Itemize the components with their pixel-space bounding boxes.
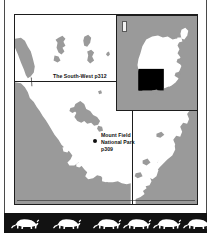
label-the-south-west: The South-West p312 <box>53 73 107 80</box>
map-panel-divider-horizontal <box>15 81 132 82</box>
thylacine-decorative-band <box>4 213 207 233</box>
tasmania-inset-map[interactable] <box>116 15 198 111</box>
label-mount-field-line1: Mount Field <box>101 132 147 139</box>
label-mount-field-line2: National Park <box>101 139 147 146</box>
page-frame-left-rule <box>4 0 5 219</box>
label-mount-field-line3: p309 <box>101 146 147 153</box>
main-map-plate[interactable]: The South-West p312 Mount Field National… <box>14 14 198 205</box>
north-indicator-icon <box>122 21 127 32</box>
label-mount-field-national-park: Mount Field National Park p309 <box>101 132 147 153</box>
page-frame-right-rule <box>206 0 207 219</box>
map-page: The South-West p312 Mount Field National… <box>0 0 212 241</box>
